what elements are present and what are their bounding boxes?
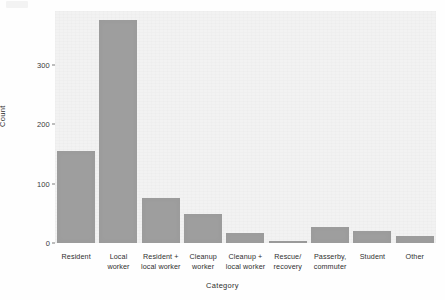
x-axis-tick-label: Passerby, commuter (310, 252, 351, 276)
bar (353, 231, 391, 243)
bar (142, 198, 180, 243)
bar (184, 214, 222, 243)
x-axis-tick-label: Other (394, 252, 435, 276)
y-axis-tick-label: 200 (24, 120, 50, 129)
y-axis-tick-label: 0 (24, 239, 50, 248)
x-axis-tick-label: Cleanup + local worker (225, 252, 266, 276)
x-axis-title: Category (0, 281, 445, 290)
scan-artifact (6, 1, 28, 8)
bar (311, 227, 349, 243)
bar (99, 20, 137, 243)
bar-series (55, 11, 436, 243)
x-axis-tick-label: Resident (56, 252, 97, 276)
x-axis-tick-label: Student (352, 252, 393, 276)
x-axis-tick-label: Rescue/ recovery (267, 252, 308, 276)
bar (396, 236, 434, 243)
bar (269, 241, 307, 243)
bar-chart-screenshot: Count 0100200300 ResidentLocal workerRes… (0, 0, 445, 300)
x-axis-ticks: ResidentLocal workerResident + local wor… (55, 252, 436, 276)
y-axis-title: Count (0, 105, 7, 127)
x-axis-tick-label: Local worker (98, 252, 139, 276)
y-axis-tick-label: 100 (24, 179, 50, 188)
x-axis-tick-label: Cleanup worker (183, 252, 224, 276)
x-axis-tick-label: Resident + local worker (140, 252, 181, 276)
bar (226, 233, 264, 243)
plot-panel (55, 11, 436, 243)
y-axis-tick-label: 300 (24, 60, 50, 69)
bar (57, 151, 95, 243)
